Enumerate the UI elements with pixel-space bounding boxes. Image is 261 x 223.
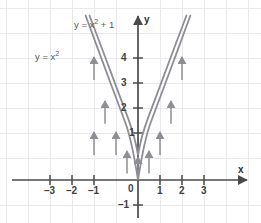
grid-horizontal <box>0 8 261 205</box>
x-axis-name: x <box>238 165 244 175</box>
curve-label-base-base: y = x <box>35 51 55 62</box>
y-tick-label-3: 3 <box>121 78 127 88</box>
y-tick-label-neg1: –1 <box>118 200 129 210</box>
y-tick-label-1: 1 <box>129 128 135 138</box>
graph-figure: –3 –2 –1 1 2 3 0 4 3 2 1 –1 y x y = x2 +… <box>0 0 261 223</box>
y-tick-label-2: 2 <box>121 103 127 113</box>
curve-label-shifted: y = x2 + 1 <box>74 20 114 30</box>
x-tick-label-1: 1 <box>157 186 163 196</box>
curve-label-base: y = x2 <box>35 52 59 62</box>
y-axis-name: y <box>144 15 150 25</box>
x-tick-label-2: 2 <box>179 186 185 196</box>
curve-label-base-exponent: 2 <box>55 50 59 57</box>
curve-label-shifted-tail: + 1 <box>98 19 114 30</box>
x-tick-label-neg1: –1 <box>88 186 99 196</box>
origin-label: 0 <box>128 184 134 194</box>
x-tick-label-3: 3 <box>201 186 207 196</box>
curve-label-shifted-base: y = x <box>74 19 94 30</box>
x-tick-label-neg3: –3 <box>44 186 55 196</box>
y-tick-label-4: 4 <box>121 53 127 63</box>
x-tick-label-neg2: –2 <box>66 186 77 196</box>
